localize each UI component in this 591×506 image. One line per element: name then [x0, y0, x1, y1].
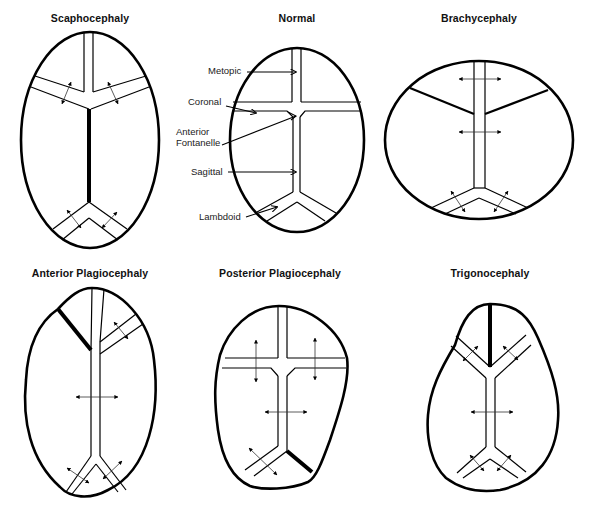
skull-trigonocephaly [428, 304, 559, 491]
skull-diagrams [0, 0, 591, 506]
skull-brachycephaly [385, 61, 573, 219]
skull-anterior-plagiocephaly [25, 288, 156, 496]
skull-posterior-plagiocephaly [215, 306, 347, 489]
skull-scaphocephaly [21, 32, 159, 248]
skull-normal [222, 48, 364, 232]
